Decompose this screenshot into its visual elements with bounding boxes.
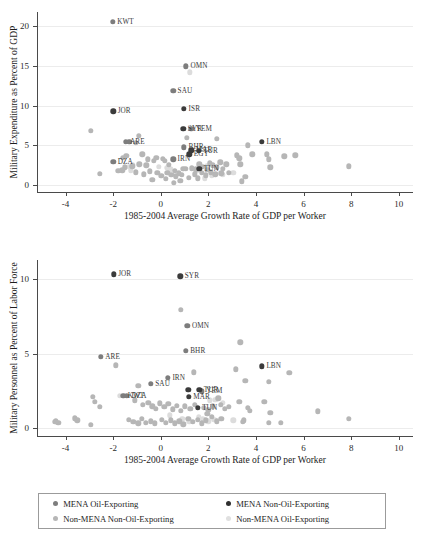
data-point-non-mena-non-oil xyxy=(144,163,149,168)
data-point-non-mena-non-oil xyxy=(268,410,273,415)
data-point-non-mena-non-oil xyxy=(278,420,283,425)
data-point-non-mena-non-oil xyxy=(163,176,168,181)
data-point-mena-oil-sau xyxy=(148,381,153,386)
data-point-label-omn: OMN xyxy=(190,62,207,70)
x-tick-8 xyxy=(351,192,352,196)
data-point-non-mena-non-oil xyxy=(223,162,228,167)
data-point-non-mena-non-oil xyxy=(243,378,248,383)
data-point-non-mena-non-oil xyxy=(181,421,186,426)
data-point-label-dza: DZA xyxy=(118,158,133,166)
x-tick-label-8: 8 xyxy=(349,199,354,209)
x-tick-4 xyxy=(256,192,257,196)
legend-item-label: Non-MENA Non-Oil-Exporting xyxy=(63,514,174,524)
data-point-mena-non-oil-lbn xyxy=(259,363,264,368)
x-tick-8 xyxy=(351,436,352,440)
data-point-mena-non-oil-lbn xyxy=(259,139,264,144)
data-point-mena-non-oil-jor xyxy=(111,271,116,276)
data-point-non-mena-non-oil xyxy=(92,399,97,404)
data-point-non-mena-non-oil xyxy=(247,408,252,413)
data-point-mena-non-oil-isr xyxy=(181,106,186,111)
data-point-non-mena-non-oil xyxy=(88,422,93,427)
data-point-non-mena-non-oil xyxy=(266,379,271,384)
data-point-non-mena-non-oil xyxy=(233,366,238,371)
data-point-non-mena-non-oil xyxy=(240,419,245,424)
data-point-label-mar: MAR xyxy=(193,393,210,401)
data-point-label-kwt: KWT xyxy=(117,18,134,26)
x-axis-title: 1985-2004 Average Growth Rate of GDP per… xyxy=(37,211,413,221)
gridline-y-0 xyxy=(37,428,413,429)
data-point-mena-oil-are xyxy=(98,354,103,359)
x-tick-2 xyxy=(208,436,209,440)
data-point-label-jor: JOR xyxy=(118,107,131,115)
x-tick-label-0: 0 xyxy=(158,443,163,453)
data-point-non-mena-oil xyxy=(231,418,236,423)
gridline-y-20 xyxy=(37,26,413,27)
data-point-non-mena-non-oil xyxy=(238,162,243,167)
data-point-non-mena-non-oil xyxy=(178,307,183,312)
data-point-non-mena-non-oil xyxy=(287,370,292,375)
data-point-label-irn: IRN xyxy=(178,155,191,163)
data-point-non-mena-non-oil xyxy=(245,143,250,148)
y-tick-10 xyxy=(33,106,37,107)
data-point-label-bhr: BHR xyxy=(190,347,205,355)
data-point-non-mena-non-oil xyxy=(75,418,80,423)
x-tick-label--4: -4 xyxy=(62,199,70,209)
data-point-non-mena-non-oil xyxy=(239,179,244,184)
data-point-label-lbn: LBN xyxy=(266,138,281,146)
x-tick-label-6: 6 xyxy=(301,199,306,209)
data-point-non-mena-oil xyxy=(156,164,161,169)
x-tick-label--2: -2 xyxy=(109,443,117,453)
x-tick--4 xyxy=(66,192,67,196)
chart-panel-military-personnel: 0510-4-202468101985-2004 Average Growth … xyxy=(0,246,424,486)
x-tick-label--2: -2 xyxy=(109,199,117,209)
y-tick-15 xyxy=(33,66,37,67)
data-point-non-mena-non-oil xyxy=(226,170,231,175)
data-point-non-mena-non-oil xyxy=(226,404,231,409)
data-point-non-mena-non-oil xyxy=(135,421,140,426)
legend-item-non-mena-oil: Non-MENA Oil-Exporting xyxy=(212,514,385,524)
data-point-label-jor: JOR xyxy=(118,270,131,278)
data-point-non-mena-non-oil xyxy=(178,178,183,183)
x-tick-label-10: 10 xyxy=(394,443,403,453)
x-tick-label-4: 4 xyxy=(254,443,259,453)
data-point-label-isr: ISR xyxy=(189,105,201,113)
x-tick--4 xyxy=(66,436,67,440)
x-tick-label-2: 2 xyxy=(206,199,211,209)
legend-swatch-icon xyxy=(226,516,231,521)
legend-item-label: MENA Oil-Exporting xyxy=(63,499,138,509)
data-point-mena-non-oil xyxy=(185,387,190,392)
data-point-non-mena-oil xyxy=(187,70,192,75)
data-point-non-mena-non-oil xyxy=(243,174,248,179)
x-tick-label-0: 0 xyxy=(158,199,163,209)
data-point-non-mena-non-oil xyxy=(238,340,243,345)
data-point-non-mena-non-oil xyxy=(141,171,146,176)
data-point-non-mena-non-oil xyxy=(137,162,142,167)
x-tick--2 xyxy=(113,436,114,440)
data-point-non-mena-non-oil xyxy=(133,169,138,174)
data-point-non-mena-non-oil xyxy=(113,363,118,368)
data-point-label-irn: IRN xyxy=(172,374,185,382)
gridline-y-10 xyxy=(37,279,413,280)
data-point-label-are: ARE xyxy=(105,353,120,361)
gridline-y-5 xyxy=(37,145,413,146)
data-point-mena-oil-dza xyxy=(110,159,115,164)
data-point-label-sau: SAU xyxy=(155,380,170,388)
x-tick--2 xyxy=(113,192,114,196)
data-point-mena-oil-omn xyxy=(183,64,188,69)
y-tick-0 xyxy=(33,185,37,186)
y-tick-10 xyxy=(33,279,37,280)
data-point-mena-oil-bhr xyxy=(181,144,186,149)
data-point-label-egy: EGY xyxy=(194,150,209,158)
data-point-non-mena-non-oil xyxy=(250,152,255,157)
legend-item-mena-non-oil: MENA Non-Oil-Exporting xyxy=(212,499,385,509)
x-tick-label-8: 8 xyxy=(349,443,354,453)
chart-panel-military-expenditure: 05101520-4-202468101985-2004 Average Gro… xyxy=(0,0,424,240)
y-axis-line xyxy=(37,12,38,192)
data-point-label-are: ARE xyxy=(130,138,145,146)
data-point-non-mena-non-oil xyxy=(262,399,267,404)
data-point-mena-oil-omn xyxy=(185,323,190,328)
legend-swatch-icon xyxy=(226,501,231,506)
data-point-non-mena-oil xyxy=(231,170,236,175)
data-point-non-mena-non-oil xyxy=(292,152,297,157)
data-point-mena-oil-irn xyxy=(170,157,175,162)
